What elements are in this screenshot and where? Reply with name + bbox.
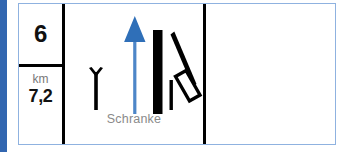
- km-value-cell: km 7,2: [19, 67, 62, 144]
- barrier-boom-icon: [170, 32, 201, 111]
- km-number-cell: 6: [19, 4, 62, 67]
- signal-post-icon: [89, 67, 103, 110]
- km-marker-column: 6 km 7,2: [19, 4, 62, 144]
- diagram-table-frame: 6 km 7,2: [18, 3, 336, 145]
- km-unit-label: km: [33, 73, 49, 86]
- km-value: 7,2: [28, 86, 52, 107]
- direction-arrow-up-icon: [124, 16, 145, 114]
- left-accent-bar: [0, 0, 7, 152]
- kilometer-marker-diagram: 6 km 7,2: [0, 0, 350, 157]
- track-bar-icon: [153, 30, 163, 114]
- empty-notes-column: [206, 4, 335, 144]
- symbol-caption: Schranke: [65, 112, 203, 126]
- symbol-column: Schranke: [65, 4, 203, 144]
- km-number: 6: [34, 22, 47, 46]
